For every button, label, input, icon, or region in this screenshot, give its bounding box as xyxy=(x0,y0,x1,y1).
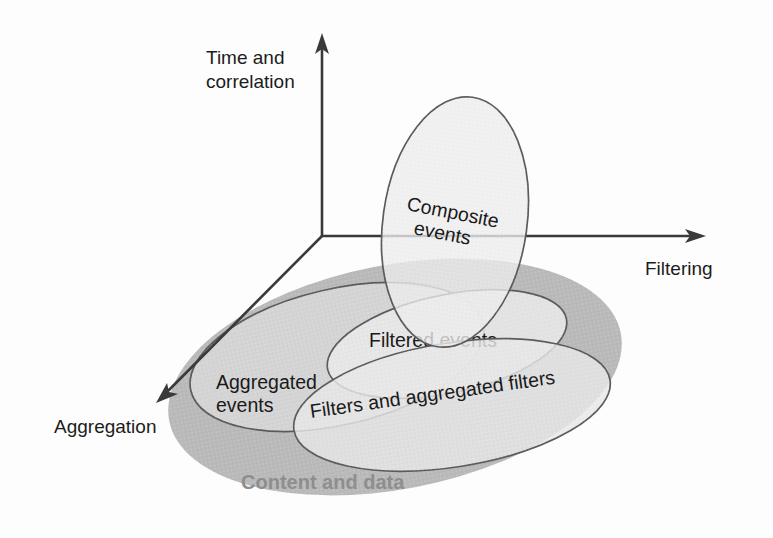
axis-label-time-line1: Time and xyxy=(206,47,285,68)
aggregated-events-label-line2: events xyxy=(216,394,274,416)
axis-label-time-line2: correlation xyxy=(206,71,295,92)
diagram-root: Content and data Aggregated events Filte… xyxy=(0,0,773,538)
axis-label-filtering: Filtering xyxy=(645,258,713,279)
aggregated-events-label-line1: Aggregated xyxy=(216,371,317,393)
content-and-data-label: Content and data xyxy=(241,471,405,493)
axis-label-aggregation: Aggregation xyxy=(54,416,156,437)
venn-diagram-figure: Content and data Aggregated events Filte… xyxy=(0,0,773,538)
axis-vertical-time-correlation[interactable] xyxy=(315,33,329,236)
